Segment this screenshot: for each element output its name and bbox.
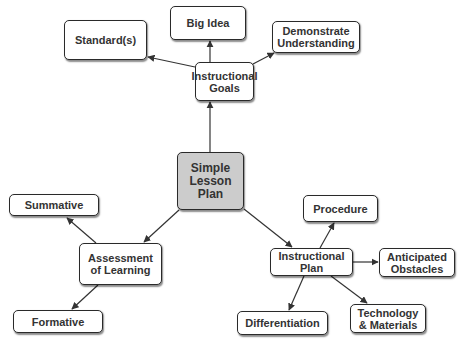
arrow-goals-to-standards bbox=[148, 57, 195, 67]
arrow-assessment-to-summative bbox=[67, 218, 96, 243]
node-label: Anticipated Obstacles bbox=[387, 251, 447, 275]
node-label: Instructional Goals bbox=[192, 70, 258, 94]
concept-map: Simple Lesson PlanInstructional GoalsSta… bbox=[0, 0, 465, 354]
node-formative: Formative bbox=[13, 310, 103, 333]
node-center: Simple Lesson Plan bbox=[177, 152, 244, 210]
node-demonstrate: Demonstrate Understanding bbox=[272, 21, 360, 53]
node-label: Demonstrate Understanding bbox=[277, 25, 355, 49]
node-label: Formative bbox=[32, 316, 85, 328]
node-summative: Summative bbox=[9, 194, 99, 216]
arrow-center-to-plan bbox=[244, 209, 292, 247]
node-label: Differentiation bbox=[245, 317, 320, 329]
arrow-goals-to-demonstrate bbox=[253, 53, 274, 64]
node-goals: Instructional Goals bbox=[195, 62, 254, 101]
node-label: Technology & Materials bbox=[358, 307, 419, 331]
node-standards: Standard(s) bbox=[64, 20, 147, 60]
node-technology: Technology & Materials bbox=[350, 304, 426, 333]
arrow-center-to-assessment bbox=[144, 210, 179, 242]
node-label: Instructional Plan bbox=[278, 250, 344, 274]
node-label: Assessment of Learning bbox=[88, 252, 153, 276]
node-procedure: Procedure bbox=[303, 195, 378, 222]
arrow-plan-to-differentiation bbox=[289, 276, 304, 310]
arrow-plan-to-technology bbox=[331, 276, 367, 303]
arrow-plan-to-procedure bbox=[320, 223, 334, 248]
arrow-assessment-to-formative bbox=[72, 285, 98, 309]
node-obstacles: Anticipated Obstacles bbox=[379, 248, 455, 277]
node-label: Simple Lesson Plan bbox=[189, 162, 231, 201]
node-label: Summative bbox=[25, 199, 84, 211]
node-assessment: Assessment of Learning bbox=[79, 243, 162, 285]
node-label: Big Idea bbox=[187, 17, 230, 29]
node-label: Procedure bbox=[313, 203, 367, 215]
node-bigidea: Big Idea bbox=[170, 6, 246, 40]
node-plan: Instructional Plan bbox=[270, 248, 353, 276]
node-differentiation: Differentiation bbox=[237, 311, 328, 335]
node-label: Standard(s) bbox=[75, 34, 136, 46]
